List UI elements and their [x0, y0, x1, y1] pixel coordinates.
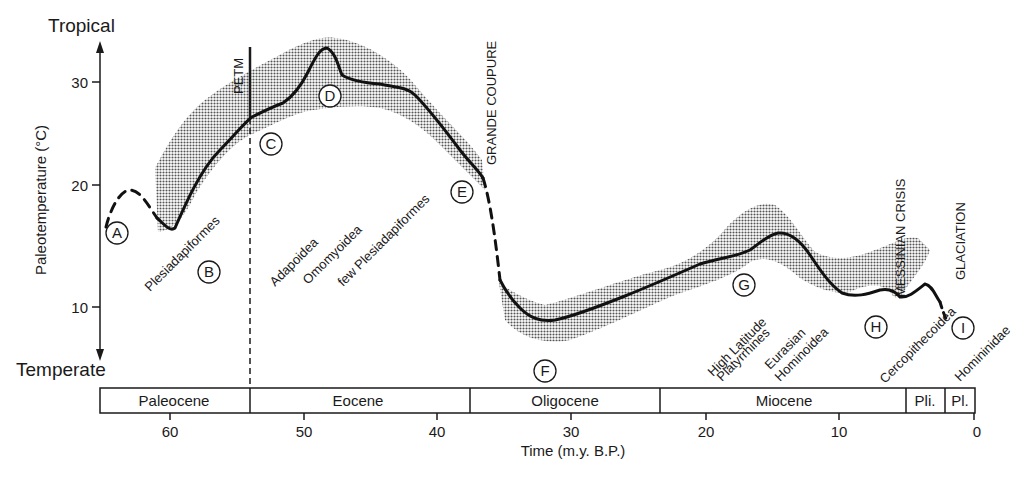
epoch-miocene: Miocene [756, 392, 813, 409]
point-label-E-text: E [457, 183, 467, 200]
x-tick-50: 50 [296, 423, 313, 440]
point-label-D-text: D [325, 87, 336, 104]
x-tick-40: 40 [429, 423, 446, 440]
y-tick-10: 10 [71, 299, 88, 316]
petm-label: PETM [231, 58, 246, 94]
x-tick-20: 20 [698, 423, 715, 440]
point-label-A-text: A [112, 224, 122, 241]
epoch-pliocene: Pli. [915, 392, 936, 409]
y-bottom-label: Temperate [16, 359, 106, 380]
point-label-H-text: H [871, 318, 882, 335]
paleotemperature-chart: Tropical Temperate Paleotemperature (°C)… [0, 0, 1035, 483]
glaciation-label: GLACIATION [953, 202, 968, 280]
point-label-F-text: F [540, 362, 549, 379]
y-top-label: Tropical [48, 15, 115, 36]
epoch-eocene: Eocene [333, 392, 384, 409]
epoch-pleistocene: Pl. [951, 392, 969, 409]
taxon-cercopithecoidea: Cercopithecoidea [877, 303, 960, 386]
epoch-oligocene: Oligocene [531, 392, 599, 409]
x-axis-title: Time (m.y. B.P.) [521, 442, 626, 459]
x-tick-10: 10 [831, 423, 848, 440]
grande-coupure-label: GRANDE COUPURE [484, 40, 499, 165]
y-tick-20: 20 [71, 177, 88, 194]
point-label-B-text: B [204, 263, 214, 280]
messinian-crisis-label: MESSINIAN CRISIS [893, 178, 908, 297]
x-tick-0: 0 [973, 423, 981, 440]
curve-dashed-start [106, 190, 157, 227]
y-tick-30: 30 [71, 74, 88, 91]
y-axis [92, 41, 104, 361]
point-label-I-text: I [961, 319, 965, 336]
point-label-C-text: C [266, 135, 277, 152]
curve-dashed-grande-coupure [483, 178, 500, 280]
y-axis-title: Paleotemperature (°C) [32, 125, 49, 275]
x-tick-30: 30 [563, 423, 580, 440]
point-label-G-text: G [738, 276, 750, 293]
uncertainty-band [155, 38, 930, 342]
epoch-paleocene: Paleocene [139, 392, 210, 409]
x-tick-60: 60 [162, 423, 179, 440]
